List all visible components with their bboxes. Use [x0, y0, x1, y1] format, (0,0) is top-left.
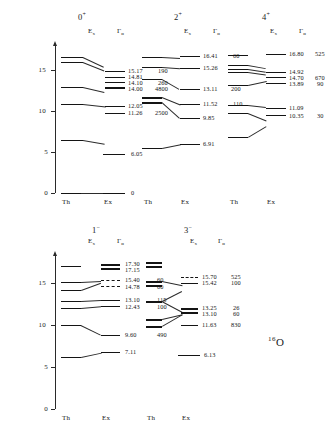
theory-level	[228, 113, 248, 114]
theory-level	[146, 266, 162, 268]
experiment-level	[105, 87, 125, 89]
theory-level	[228, 105, 248, 106]
panel-label-0-plus: 0+	[78, 11, 86, 22]
energy-value: 16.80	[289, 50, 304, 57]
experiment-level	[266, 72, 286, 73]
axis-label-theory-4: Th	[147, 414, 155, 422]
experiment-level	[180, 104, 200, 105]
tick-top-0	[51, 193, 55, 194]
experiment-level	[266, 115, 286, 116]
experiment-level	[101, 268, 120, 270]
column-header-width-1: Γα	[213, 27, 220, 36]
panel-label-1-minus: 1−	[92, 224, 100, 235]
axis-label-theory-2: Th	[230, 198, 238, 206]
axis-arrow-bottom	[53, 251, 57, 256]
theory-level	[61, 57, 83, 58]
column-header-width-4: Γα	[218, 237, 225, 246]
width-value: 830	[231, 321, 241, 328]
energy-value: 7.11	[125, 348, 136, 355]
experiment-level-dashed	[101, 280, 120, 281]
axis-label-experiment-0: Ex	[104, 198, 112, 206]
energy-value: 11.63	[202, 321, 216, 328]
experiment-level	[101, 300, 120, 301]
experiment-level	[266, 77, 286, 78]
level-connector	[83, 87, 105, 93]
experiment-level	[105, 71, 125, 72]
theory-level	[61, 290, 81, 291]
energy-value: 12.05	[128, 102, 143, 109]
level-connector	[162, 281, 183, 286]
panel-label-4-plus: 4+	[262, 11, 270, 22]
theory-level	[146, 285, 162, 287]
energy-value: 11.52	[203, 100, 217, 107]
experiment-level	[101, 306, 120, 307]
tick-label-top-10: 10	[34, 107, 46, 115]
tick-label-bottom-10: 10	[34, 321, 46, 329]
width-value: 525	[315, 50, 325, 57]
axis-line-bottom	[55, 256, 56, 409]
width-value: 60	[233, 310, 240, 317]
level-connector	[248, 113, 266, 121]
energy-value: 15.26	[203, 64, 218, 71]
experiment-level-dashed	[101, 286, 120, 287]
axis-label-experiment-1: Ex	[181, 198, 189, 206]
energy-value: 13.11	[203, 85, 217, 92]
experiment-level	[181, 312, 198, 314]
experiment-level	[180, 89, 200, 90]
energy-value: 13.89	[289, 80, 304, 87]
axis-label-experiment-4: Ex	[182, 414, 190, 422]
column-header-width-3: Γα	[117, 237, 124, 246]
level-connector	[81, 306, 101, 309]
theory-level	[61, 325, 81, 326]
theory-level	[142, 67, 162, 68]
panel-label-3-minus: 3−	[184, 224, 192, 235]
axis-label-theory-3: Th	[62, 414, 70, 422]
theory-level	[146, 262, 162, 264]
theory-level	[142, 57, 162, 58]
experiment-level-ground	[103, 193, 125, 194]
axis-label-experiment-3: Ex	[102, 414, 110, 422]
theory-level	[228, 55, 248, 56]
level-connector	[83, 62, 105, 71]
level-connector	[162, 57, 180, 59]
level-connector	[81, 193, 103, 194]
energy-value: 14.78	[125, 283, 140, 290]
theory-level	[61, 140, 83, 141]
column-header-width-2: Γα	[299, 27, 306, 36]
energy-value: 6.05	[131, 150, 142, 157]
level-connector	[248, 105, 266, 108]
tick-bottom-15	[51, 283, 55, 284]
energy-value: 15.42	[202, 279, 217, 286]
theory-level	[61, 308, 81, 309]
level-connector	[81, 280, 101, 282]
energy-value: 15.40	[125, 276, 140, 283]
theory-level	[228, 65, 248, 66]
energy-value: 13.10	[202, 310, 217, 317]
experiment-level	[266, 108, 286, 109]
level-connector	[248, 81, 266, 86]
experiment-level	[181, 283, 198, 284]
column-header-energy-2: Ex	[270, 27, 277, 36]
level-connector	[81, 300, 101, 302]
experiment-level	[181, 308, 198, 310]
column-header-energy-1: Ex	[184, 27, 191, 36]
tick-label-bottom-5: 5	[36, 363, 48, 371]
theory-level	[61, 104, 83, 105]
energy-value: 16.41	[203, 52, 218, 59]
theory-level	[142, 97, 162, 99]
theory-level	[142, 79, 162, 80]
theory-level	[61, 266, 81, 267]
level-connector	[248, 126, 266, 138]
energy-value: 6.91	[203, 140, 214, 147]
experiment-level	[178, 355, 200, 356]
energy-value: 6.13	[204, 351, 215, 358]
theory-level	[146, 281, 162, 283]
tick-bottom-10	[51, 325, 55, 326]
experiment-level	[105, 106, 125, 107]
theory-level	[146, 319, 162, 321]
tick-label-top-5: 5	[36, 148, 48, 156]
experiment-level	[181, 325, 198, 326]
theory-level	[228, 72, 248, 73]
energy-value: 11.09	[289, 104, 303, 111]
tick-top-5	[51, 152, 55, 153]
